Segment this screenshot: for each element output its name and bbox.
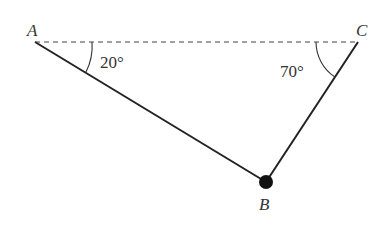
label-b: B (259, 195, 270, 214)
angle-arc-c (316, 42, 335, 77)
segment-ab (35, 42, 266, 182)
point-b-marker (259, 175, 273, 189)
triangle-diagram: A C B 20° 70° (0, 0, 384, 225)
label-c: C (356, 21, 368, 40)
angle-label-a: 20° (100, 53, 124, 72)
label-a: A (26, 21, 38, 40)
angle-label-c: 70° (280, 62, 304, 81)
angle-arc-a (86, 42, 92, 72)
